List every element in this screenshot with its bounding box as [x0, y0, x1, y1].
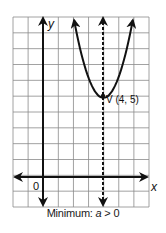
caption-prefix: Minimum: — [47, 207, 96, 219]
vertex-label: V (4, 5) — [106, 94, 139, 105]
grid — [13, 17, 149, 207]
origin-label: 0 — [33, 180, 39, 192]
x-axis-label: x — [150, 180, 158, 194]
vertex-point — [101, 94, 105, 98]
graph-caption: Minimum: a > 0 — [0, 207, 166, 219]
caption-suffix: > 0 — [102, 207, 120, 219]
y-axis-label: y — [47, 17, 55, 31]
parabola-graph: y x 0 V (4, 5) — [0, 0, 166, 233]
